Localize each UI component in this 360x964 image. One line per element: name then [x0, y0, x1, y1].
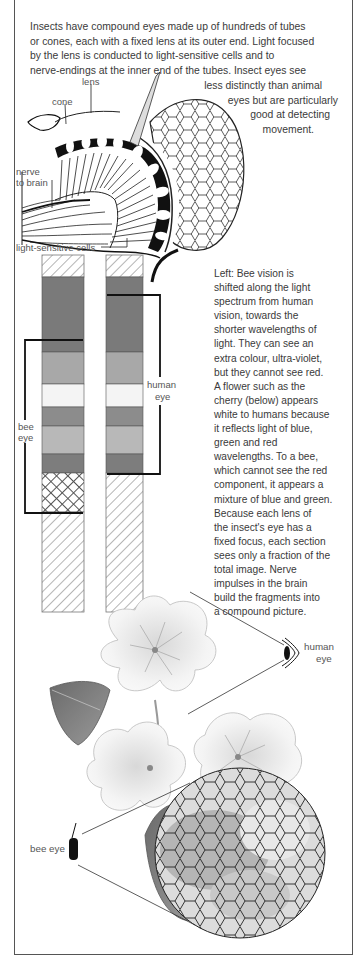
intro-line: movement.: [184, 123, 314, 138]
caption-line: Because each lens of: [214, 507, 350, 521]
label-human-eye: eye: [155, 391, 170, 402]
caption-line: vision, towards the: [214, 309, 350, 323]
intro-line: good at detecting: [184, 108, 330, 123]
caption-line: white to humans because: [214, 408, 350, 422]
caption-paragraph: Left: Bee vision is shifted along the li…: [214, 267, 350, 619]
caption-line: the insect's eye has a: [214, 521, 350, 535]
caption-line: but they cannot see red.: [214, 366, 350, 380]
label-human-eye-flower-2: eye: [316, 653, 332, 664]
caption-line: cherry (below) appears: [214, 394, 350, 408]
caption-line: it reflects light of blue,: [214, 422, 350, 436]
caption-line: which cannot see the red: [214, 464, 350, 478]
caption-line: fixed focus, each section: [214, 535, 350, 549]
human-eye-icon: [282, 638, 299, 668]
label-human-eye-flower: human: [304, 641, 334, 652]
label-light-sensitive-cells: light-sensitive cells: [16, 242, 95, 253]
cherry-flower-illustration: [50, 592, 330, 945]
label-bee-eye: eye: [18, 432, 33, 443]
intro-line: nerve-endings at the inner end of the tu…: [30, 64, 350, 79]
label-cone: cone: [52, 96, 73, 107]
label-bee-eye-flower: bee eye: [30, 843, 65, 854]
caption-line: spectrum from human: [214, 295, 350, 309]
label-bee: bee: [18, 421, 34, 432]
caption-line: green and red: [214, 436, 350, 450]
intro-line: less distinctly than animal: [184, 79, 322, 94]
label-lens: lens: [82, 76, 99, 87]
intro-line: Insects have compound eyes made up of hu…: [30, 20, 350, 35]
intro-line: eyes but are particularly: [184, 94, 338, 109]
intro-line: or cones, each with a fixed lens at its …: [30, 35, 350, 50]
caption-line: build the fragments into: [214, 591, 350, 605]
caption-line: a compound picture.: [214, 605, 350, 619]
intro-continuation: less distinctly than animal eyes but are…: [184, 79, 344, 137]
label-human: human: [147, 379, 176, 390]
caption-line: component, it appears a: [214, 478, 350, 492]
spectrum-bars: [25, 255, 160, 612]
label-to-brain: to brain: [16, 177, 48, 188]
caption-line: Left: Bee vision is: [214, 267, 350, 281]
caption-line: extra colour, ultra-violet,: [214, 352, 350, 366]
intro-line: by the lens is conducted to light-sensit…: [30, 49, 350, 64]
caption-line: wavelengths. To a bee,: [214, 450, 350, 464]
caption-line: sees only a fraction of the: [214, 549, 350, 563]
label-nerve: nerve: [16, 166, 40, 177]
caption-line: A flower such as the: [214, 380, 350, 394]
caption-line: total image. Nerve: [214, 563, 350, 577]
bee-eye-icon: [69, 823, 78, 860]
caption-line: shorter wavelengths of: [214, 323, 350, 337]
caption-line: shifted along the light: [214, 281, 350, 295]
caption-line: impulses in the brain: [214, 577, 350, 591]
caption-line: mixture of blue and green.: [214, 493, 350, 507]
caption-line: light. They can see an: [214, 337, 350, 351]
intro-paragraph: Insects have compound eyes made up of hu…: [30, 20, 350, 78]
